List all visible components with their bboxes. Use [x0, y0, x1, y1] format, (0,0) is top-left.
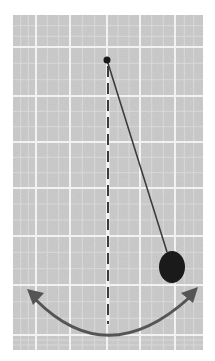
pendulum-bob — [159, 251, 185, 283]
pivot-point — [104, 57, 111, 64]
pendulum-diagram — [0, 0, 215, 361]
